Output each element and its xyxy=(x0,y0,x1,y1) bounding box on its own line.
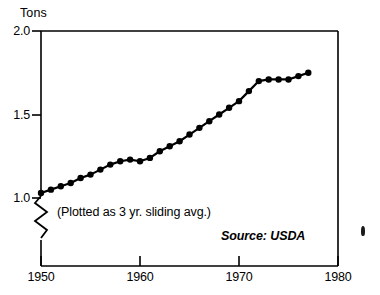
data-point-marker xyxy=(147,155,153,161)
data-point-marker xyxy=(127,156,133,162)
data-point-marker xyxy=(107,161,113,167)
data-point-marker xyxy=(38,190,44,196)
y-tick-label-2-0: 2.0 xyxy=(0,24,30,38)
data-point-marker xyxy=(167,143,173,149)
data-point-marker xyxy=(246,88,252,94)
chart-plot-area xyxy=(0,0,380,295)
data-point-marker xyxy=(226,105,232,111)
data-point-marker xyxy=(236,98,242,104)
data-point-marker xyxy=(206,118,212,124)
chart-source-label: Source: USDA xyxy=(221,229,305,243)
x-tick-label-1970: 1970 xyxy=(209,270,269,284)
data-point-marker xyxy=(87,171,93,177)
data-point-marker xyxy=(77,175,83,181)
data-point-marker xyxy=(216,111,222,117)
data-point-marker xyxy=(266,76,272,82)
data-point-marker xyxy=(97,166,103,172)
x-tick-label-1980: 1980 xyxy=(308,270,368,284)
data-point-marker xyxy=(68,180,74,186)
data-point-marker xyxy=(295,73,301,79)
data-point-marker xyxy=(48,186,54,192)
chart-container: Tons 2.0 1.5 1.0 1950 1960 xyxy=(0,0,380,295)
data-point-marker xyxy=(117,158,123,164)
data-point-marker xyxy=(157,148,163,154)
y-tick-label-1-5: 1.5 xyxy=(0,108,30,122)
chart-annotation-note: (Plotted as 3 yr. sliding avg.) xyxy=(57,205,211,219)
data-point-marker xyxy=(58,183,64,189)
y-axis-break-symbol xyxy=(35,196,47,238)
x-tick-label-1960: 1960 xyxy=(110,270,170,284)
y-axis-ticks xyxy=(32,31,41,198)
data-point-marker xyxy=(137,158,143,164)
data-point-marker xyxy=(305,70,311,76)
data-series-tons xyxy=(38,70,312,197)
data-point-marker xyxy=(256,78,262,84)
y-tick-label-1-0: 1.0 xyxy=(0,191,30,205)
x-tick-label-1950: 1950 xyxy=(11,270,71,284)
data-point-marker xyxy=(176,138,182,144)
data-point-marker xyxy=(275,76,281,82)
data-point-marker xyxy=(186,131,192,137)
data-point-marker xyxy=(285,76,291,82)
x-axis-ticks xyxy=(41,256,338,266)
data-point-marker xyxy=(196,125,202,131)
edge-artifact-mark xyxy=(361,226,365,236)
